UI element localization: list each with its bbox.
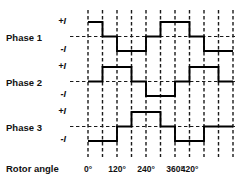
x-tick-label-0: 0° — [84, 164, 93, 174]
phase-3-label: Phase 3 — [6, 122, 42, 133]
commutation-waveform-figure: Phase 1 +I -I Phase 2 +I -I Phase 3 +I -… — [0, 0, 240, 183]
x-tick-label-120: 120° — [108, 164, 126, 174]
rotor-angle-axis-label: Rotor angle — [6, 163, 59, 174]
phase-1-negative-label: -I — [61, 44, 67, 54]
phase-3-positive-label: +I — [58, 106, 66, 116]
phase-1-positive-label: +I — [58, 16, 66, 26]
phase-2-positive-label: +I — [58, 61, 66, 71]
x-tick-label-240: 240° — [137, 164, 155, 174]
phase-2-negative-label: -I — [61, 89, 67, 99]
phase-1-label: Phase 1 — [6, 32, 43, 43]
x-axis-tick-labels: 0°120°240°360°420° — [84, 164, 199, 174]
phase-2-label: Phase 2 — [6, 77, 42, 88]
x-tick-label-420: 420° — [181, 164, 199, 174]
phase-3-negative-label: -I — [61, 134, 67, 144]
